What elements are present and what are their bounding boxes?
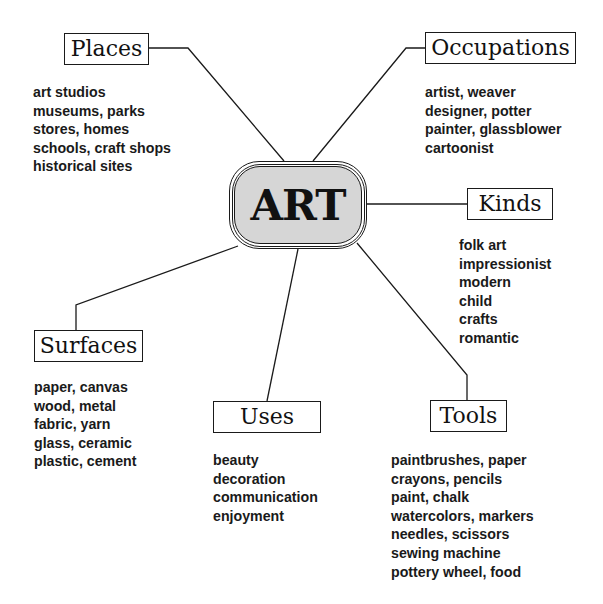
category-uses: Uses [213, 401, 321, 433]
connector-uses [267, 249, 298, 401]
connector-occupations [313, 48, 425, 161]
category-occupations: Occupations [425, 32, 576, 64]
list-item: decoration [213, 470, 318, 489]
uses-list: beauty decoration communication enjoymen… [213, 451, 318, 525]
list-item: communication [213, 488, 318, 507]
list-item: wood, metal [34, 397, 137, 416]
list-item: stores, homes [33, 120, 171, 139]
surfaces-list: paper, canvas wood, metal fabric, yarn g… [34, 378, 137, 471]
list-item: schools, craft shops [33, 139, 171, 158]
list-item: art studios [33, 83, 171, 102]
list-item: romantic [459, 329, 551, 348]
list-item: designer, potter [425, 102, 561, 121]
places-list: art studios museums, parks stores, homes… [33, 83, 171, 176]
list-item: needles, scissors [391, 525, 534, 544]
connector-surfaces [76, 246, 238, 330]
tools-list: paintbrushes, paper crayons, pencils pai… [391, 451, 534, 581]
center-node-border: ART [232, 164, 365, 247]
list-item: crayons, pencils [391, 470, 534, 489]
list-item: enjoyment [213, 507, 318, 526]
list-item: impressionist [459, 255, 551, 274]
center-node: ART [229, 161, 367, 249]
category-places: Places [64, 33, 149, 65]
list-item: sewing machine [391, 544, 534, 563]
connector-tools [357, 243, 467, 400]
list-item: paper, canvas [34, 378, 137, 397]
center-node-label: ART [234, 166, 362, 244]
list-item: plastic, cement [34, 452, 137, 471]
concept-map: ART Places art studios museums, parks st… [0, 0, 603, 604]
category-tools: Tools [430, 400, 507, 432]
occupations-list: artist, weaver designer, potter painter,… [425, 83, 561, 157]
kinds-list: folk art impressionist modern child craf… [459, 236, 551, 348]
list-item: folk art [459, 236, 551, 255]
category-kinds: Kinds [467, 188, 553, 220]
list-item: beauty [213, 451, 318, 470]
list-item: fabric, yarn [34, 415, 137, 434]
list-item: glass, ceramic [34, 434, 137, 453]
list-item: cartoonist [425, 139, 561, 158]
list-item: artist, weaver [425, 83, 561, 102]
list-item: historical sites [33, 157, 171, 176]
list-item: child [459, 292, 551, 311]
list-item: modern [459, 273, 551, 292]
list-item: painter, glassblower [425, 120, 561, 139]
list-item: watercolors, markers [391, 507, 534, 526]
list-item: pottery wheel, food [391, 563, 534, 582]
list-item: paint, chalk [391, 488, 534, 507]
list-item: museums, parks [33, 102, 171, 121]
list-item: crafts [459, 310, 551, 329]
list-item: paintbrushes, paper [391, 451, 534, 470]
category-surfaces: Surfaces [34, 330, 143, 362]
